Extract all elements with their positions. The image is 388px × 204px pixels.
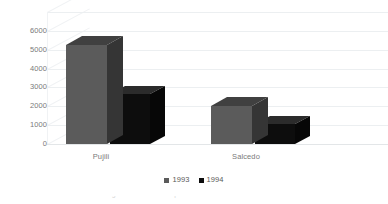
x-axis-label-salcedo: Salcedo — [211, 152, 281, 161]
clipped-caption: Gráfico 1. Número de cabezas de ganado 1… — [0, 196, 388, 204]
bar-pujili-1993[interactable] — [66, 36, 128, 144]
bar-side-face — [107, 36, 123, 144]
chart-legend: 1993 1994 — [0, 176, 388, 184]
y-axis-tick-label: 1000 — [0, 121, 47, 129]
y-axis-tick-label: 2000 — [0, 102, 47, 110]
y-axis-tick-label: 5000 — [0, 46, 47, 54]
legend-label: 1994 — [207, 176, 224, 184]
y-axis-tick-label: 4000 — [0, 65, 47, 73]
x-axis-label-pujili: Pujili — [66, 152, 136, 161]
y-axis-tick-label: 0 — [0, 140, 47, 148]
gridline-0 — [47, 144, 388, 145]
y-axis-tick-label: 3000 — [0, 83, 47, 91]
gridline-6000 — [47, 31, 388, 32]
clipped-caption-text: Gráfico 1. Número de cabezas de ganado 1… — [2, 196, 208, 197]
y-axis-tick-label: 6000 — [0, 27, 47, 35]
bar-side-face — [150, 86, 165, 144]
axis-wall-edge — [47, 12, 48, 144]
bar-front-face — [66, 45, 107, 144]
legend-item-1994[interactable]: 1994 — [199, 176, 224, 184]
bar-front-face — [211, 106, 252, 144]
bar-salcedo-1993[interactable] — [211, 97, 273, 144]
legend-label: 1993 — [172, 176, 189, 184]
legend-swatch-icon — [199, 178, 204, 183]
legend-item-1993[interactable]: 1993 — [164, 176, 189, 184]
back-wall-top-edge — [47, 12, 388, 13]
chart-container: 6000 5000 4000 3000 2000 1000 0 Pujili S… — [0, 0, 388, 204]
legend-swatch-icon — [164, 178, 169, 183]
plot-area: 6000 5000 4000 3000 2000 1000 0 — [0, 0, 388, 160]
